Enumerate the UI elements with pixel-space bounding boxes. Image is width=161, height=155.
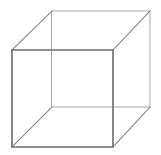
cube-edge-connector-top-left [12,11,52,50]
cube-edge-connector-bottom-right [113,107,150,147]
cube-edge-back-face [52,11,150,107]
cube-figure-canvas [0,0,161,155]
cube-edge-connector-top-right [113,11,150,50]
cube-drawing [0,0,161,155]
cube-edge-connector-bottom-left [12,107,52,147]
